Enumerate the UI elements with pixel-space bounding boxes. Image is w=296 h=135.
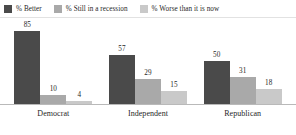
legend-label-better: % Better	[16, 5, 42, 13]
legend-swatch-icon-better	[4, 5, 12, 13]
x-tick-label-democrat: Democrat	[6, 108, 101, 119]
bar-slot-independent-still-in-a-recession: 29	[135, 69, 161, 104]
bar-value-democrat-still-in-a-recession: 10	[50, 85, 57, 94]
legend-swatch-icon-still-in-a-recession	[54, 5, 62, 13]
bar-value-independent-better: 57	[118, 45, 125, 54]
legend-label-still-in-a-recession: % Still in a recession	[66, 5, 128, 13]
legend-swatch-icon-worse-than-it-is-now	[140, 5, 148, 13]
x-axis-line	[0, 104, 296, 105]
bar-groups: 85 10 4	[6, 18, 290, 104]
bar-value-independent-worse-than-it-is-now: 15	[170, 81, 177, 90]
bar-value-independent-still-in-a-recession: 29	[144, 69, 151, 78]
bar-democrat-better[interactable]	[14, 31, 40, 104]
legend-item-better: % Better	[4, 5, 42, 13]
chart-legend: % Better % Still in a recession % Worse …	[0, 0, 296, 17]
bar-group-democrat: 85 10 4	[6, 18, 101, 104]
bar-republican-still-in-a-recession[interactable]	[230, 77, 256, 104]
legend-item-worse-than-it-is-now: % Worse than it is now	[140, 5, 220, 13]
bar-independent-still-in-a-recession[interactable]	[135, 79, 161, 104]
bar-group-independent: 57 29 15	[101, 18, 196, 104]
bar-republican-better[interactable]	[204, 61, 230, 104]
bar-republican-worse-than-it-is-now[interactable]	[256, 89, 282, 104]
bar-slot-independent-worse-than-it-is-now: 15	[161, 81, 187, 104]
x-tick-label-republican: Republican	[195, 108, 290, 119]
bar-value-democrat-better: 85	[24, 21, 31, 30]
bar-group-independent-bars: 57 29 15	[101, 18, 196, 104]
bar-value-republican-still-in-a-recession: 31	[239, 67, 246, 76]
bar-group-democrat-bars: 85 10 4	[6, 18, 101, 104]
x-axis-tick-labels: Democrat Independent Republican	[6, 108, 290, 119]
bar-democrat-still-in-a-recession[interactable]	[40, 95, 66, 104]
legend-item-still-in-a-recession: % Still in a recession	[54, 5, 128, 13]
grouped-bar-chart: % Better % Still in a recession % Worse …	[0, 0, 296, 135]
bar-slot-republican-still-in-a-recession: 31	[230, 67, 256, 104]
bar-value-republican-worse-than-it-is-now: 18	[265, 79, 272, 88]
x-tick-label-independent: Independent	[101, 108, 196, 119]
bar-slot-republican-better: 50	[204, 51, 230, 104]
bar-value-democrat-worse-than-it-is-now: 4	[78, 91, 82, 100]
bar-group-republican: 50 31 18	[195, 18, 290, 104]
plot: 85 10 4	[0, 18, 296, 135]
bar-slot-democrat-worse-than-it-is-now: 4	[66, 91, 92, 104]
bar-slot-democrat-still-in-a-recession: 10	[40, 85, 66, 104]
bar-slot-independent-better: 57	[109, 45, 135, 104]
bar-slot-republican-worse-than-it-is-now: 18	[256, 79, 282, 104]
bar-group-republican-bars: 50 31 18	[195, 18, 290, 104]
bar-slot-democrat-better: 85	[14, 21, 40, 104]
bar-independent-worse-than-it-is-now[interactable]	[161, 91, 187, 104]
plot-area: 85 10 4	[6, 18, 290, 104]
bar-independent-better[interactable]	[109, 55, 135, 104]
bar-value-republican-better: 50	[213, 51, 220, 60]
legend-label-worse-than-it-is-now: % Worse than it is now	[152, 5, 220, 13]
